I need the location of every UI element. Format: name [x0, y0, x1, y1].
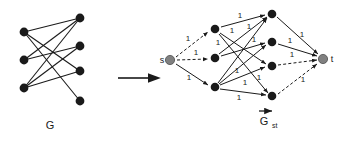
right-graph-caption-letter: G: [260, 115, 269, 127]
capacity-label-s-u3: 1: [187, 73, 192, 82]
node-gst-v4: [268, 92, 277, 101]
node-u3: [20, 84, 29, 93]
capacity-label-v3-t: 1: [290, 50, 295, 59]
figure-container: G: [0, 0, 350, 141]
edge-u1-v3: [24, 32, 80, 71]
capacity-label-u1-v3: 1: [216, 38, 221, 47]
capacity-labels: 1 1 1 1 1 1 1 1 1 1 1 1 1 1 1 1: [186, 11, 306, 102]
node-u1: [20, 28, 29, 37]
source-label-s: s: [160, 55, 165, 65]
edge-u3-v3: [24, 71, 80, 88]
node-gst-v1: [268, 10, 277, 19]
left-graph-nodes: [20, 14, 85, 106]
capacity-label-u3-v3: 1: [243, 78, 248, 87]
capacity-label-u2-v1: 1: [247, 22, 252, 31]
source-edges: [176, 32, 208, 85]
sink-edges: [277, 17, 318, 94]
capacity-label-s-u1: 1: [186, 34, 191, 43]
right-graph-Gst: s t 1 1 1 1 1 1 1 1 1 1 1 1 1 1 1 1: [160, 10, 334, 129]
node-v1: [76, 14, 85, 23]
edge-s-u2: [177, 59, 208, 60]
edge-s-u1: [176, 32, 208, 57]
sink-label-t: t: [331, 54, 334, 64]
capacity-label-u3-v1: 1: [235, 66, 240, 75]
capacity-label-u1-v1: 1: [238, 11, 243, 20]
node-v4: [76, 97, 85, 106]
right-graph-caption-subscript: st: [272, 122, 278, 129]
capacity-label-v1-t: 1: [300, 30, 305, 39]
capacity-label-u3-v2: 1: [257, 73, 262, 82]
node-gst-u1: [211, 25, 220, 34]
node-gst-v3: [268, 62, 277, 71]
node-gst-v2: [268, 38, 277, 47]
left-graph-G: G: [20, 14, 85, 131]
edge-v3-t: [278, 60, 317, 65]
edge-u3-v1: [24, 18, 80, 88]
edge-s-u3: [176, 64, 208, 85]
edge-v2-t: [278, 44, 317, 56]
edge-u3-v4: [220, 89, 266, 95]
graph-transformation-diagram: G: [0, 0, 350, 141]
capacity-label-u3-v4: 1: [237, 93, 242, 102]
capacity-label-u2-v2: 1: [252, 35, 257, 44]
node-v3: [76, 67, 85, 76]
node-v2: [76, 42, 85, 51]
right-graph-caption: G st: [259, 111, 278, 129]
node-source-s: [165, 55, 174, 64]
node-sink-t: [318, 54, 327, 63]
edge-v1-t: [277, 17, 318, 54]
capacity-label-v2-t: 1: [288, 36, 293, 45]
capacity-label-u1-v4: 1: [230, 26, 235, 35]
left-graph-edges: [24, 18, 80, 101]
edge-u1-v1: [221, 15, 265, 27]
node-u2: [20, 56, 29, 65]
capacity-label-s-u2: 1: [194, 48, 199, 57]
node-gst-u2: [211, 54, 220, 63]
edge-v4-t: [278, 64, 317, 94]
capacity-label-v4-t: 1: [301, 75, 306, 84]
left-graph-caption: G: [46, 119, 55, 131]
node-gst-u3: [211, 83, 220, 92]
edge-u1-v1: [24, 18, 80, 32]
